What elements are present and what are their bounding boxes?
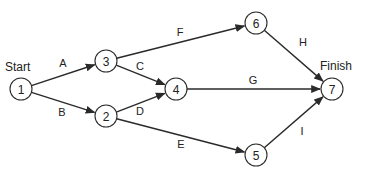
edge-h: H	[264, 30, 323, 81]
node-2: 2	[95, 105, 117, 127]
node-1: 1	[10, 78, 32, 100]
edge-label: D	[136, 105, 144, 117]
edge-g: G	[187, 74, 320, 89]
network-diagram: ABCDEFGHI 1234567 Start Finish	[0, 0, 376, 172]
edge-label: F	[177, 26, 184, 38]
node-label: 2	[103, 110, 110, 124]
edge-label: B	[58, 106, 65, 118]
edge-label: I	[300, 125, 303, 137]
arrow-6-7	[264, 30, 323, 81]
node-label: 7	[329, 83, 336, 97]
finish-label: Finish	[320, 59, 352, 73]
edge-f: F	[117, 26, 245, 58]
arrow-5-7	[264, 97, 323, 148]
node-label: 6	[253, 17, 260, 31]
node-label: 5	[253, 149, 260, 163]
start-label: Start	[5, 60, 31, 74]
node-label: 3	[103, 55, 110, 69]
edge-i: I	[264, 97, 323, 148]
node-6: 6	[245, 12, 267, 34]
node-5: 5	[245, 144, 267, 166]
node-7: 7	[321, 78, 343, 100]
edge-label: G	[249, 74, 258, 86]
edge-e: E	[117, 119, 245, 152]
node-label: 4	[173, 83, 180, 97]
edge-b: B	[31, 92, 94, 118]
edge-d: D	[116, 93, 165, 117]
edge-label: A	[59, 57, 67, 69]
node-3: 3	[95, 50, 117, 72]
node-label: 1	[18, 83, 25, 97]
edge-c: C	[116, 60, 165, 85]
edge-label: C	[136, 60, 144, 72]
edge-label: H	[299, 36, 307, 48]
edge-a: A	[31, 57, 94, 86]
node-4: 4	[165, 78, 187, 100]
edge-label: E	[177, 138, 184, 150]
